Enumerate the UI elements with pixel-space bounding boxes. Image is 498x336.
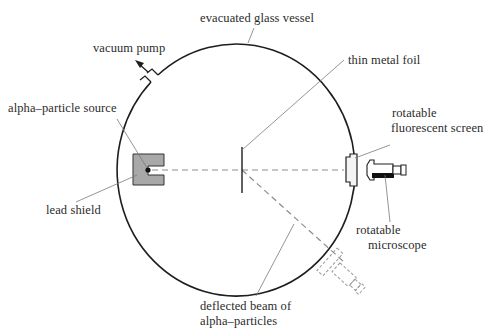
microscope bbox=[367, 160, 406, 180]
label-vacuum-pump: vacuum pump bbox=[93, 41, 165, 55]
rotated-microscope-ghost bbox=[317, 248, 372, 302]
label-alpha-particle-source: alpha–particle source bbox=[8, 101, 117, 115]
leader-lines bbox=[76, 28, 390, 296]
vacuum-pump-outlet bbox=[140, 69, 158, 82]
apparatus-diagram: evacuated glass vessel vacuum pump thin … bbox=[0, 0, 498, 336]
label-thin-metal-foil: thin metal foil bbox=[348, 53, 420, 67]
pump-arrow-icon bbox=[135, 60, 148, 72]
alpha-source bbox=[145, 167, 150, 172]
label-screen-line2: fluorescent screen bbox=[391, 121, 483, 135]
label-microscope-line1: rotatable bbox=[356, 223, 401, 237]
label-screen-line1: rotatable bbox=[392, 106, 437, 120]
label-lead-shield: lead shield bbox=[46, 203, 101, 217]
fluorescent-screen bbox=[346, 154, 357, 186]
label-microscope-line2: microscope bbox=[368, 238, 427, 252]
label-beam-line1: deflected beam of bbox=[200, 299, 291, 313]
label-beam-line2: alpha–particles bbox=[200, 314, 277, 328]
diagram-graphics bbox=[0, 0, 498, 336]
label-evacuated-glass-vessel: evacuated glass vessel bbox=[200, 11, 314, 25]
